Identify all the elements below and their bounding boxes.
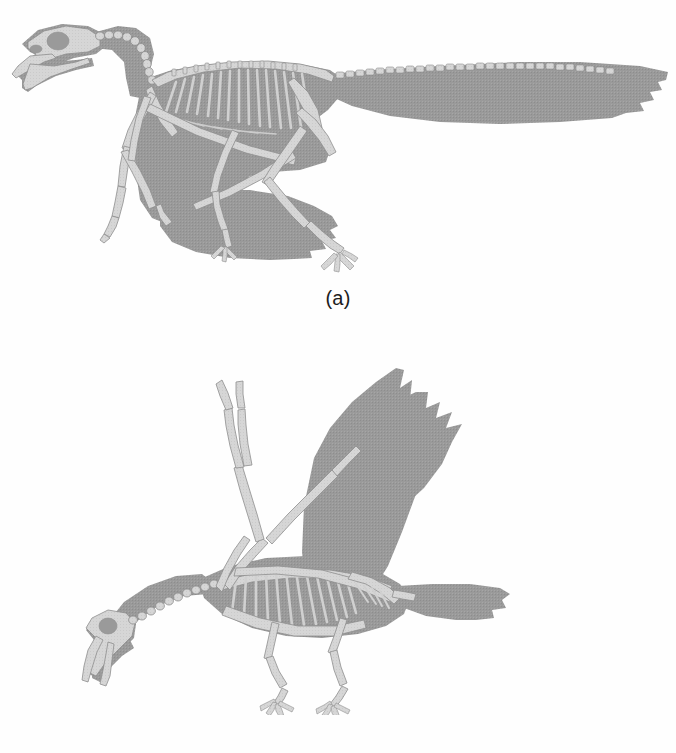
tibiotarsus-bone-far [266,656,287,688]
figure-panel-a: (a) [0,0,676,330]
figure-page: (a) [0,0,676,753]
tibiotarsus-bone-near [330,650,347,686]
antorbital-fenestra [30,45,42,53]
clawed-foot-rear [321,250,358,272]
wing-digit-bone [236,381,245,408]
modern-bird-skeleton-illustration [0,330,676,715]
archaeopteryx-skeleton-illustration [0,0,676,285]
tail-feather-fan [396,584,510,620]
panel-a-caption: (a) [0,287,676,310]
carpometacarpus-bone [112,186,126,218]
figure-panel-b: (b) [0,330,676,753]
humerus-bone [234,465,264,542]
manus-digit [104,216,119,237]
eye-socket [47,32,69,50]
carpometacarpus-bone [216,380,233,410]
eye-socket [99,618,117,634]
